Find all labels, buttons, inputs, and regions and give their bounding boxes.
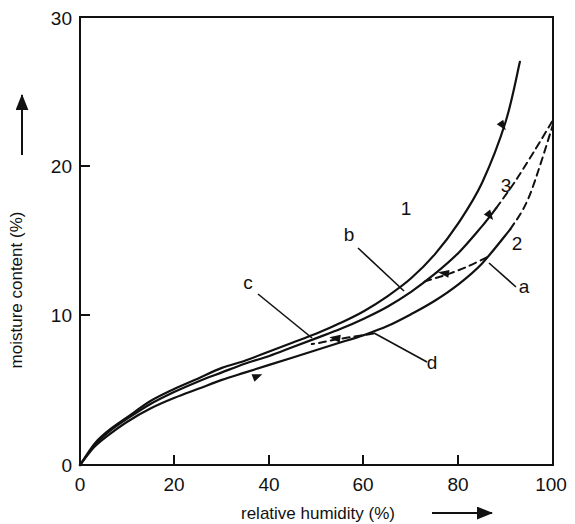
chart-svg: 0 10 20 30 0 20 40 60 80 100 relative hu… xyxy=(0,0,575,524)
curve-2-dashed xyxy=(510,125,553,230)
leader-a xyxy=(489,263,516,287)
y-axis-ticks xyxy=(80,17,90,465)
curve-label-2: 2 xyxy=(512,233,523,254)
x-tick-80: 80 xyxy=(447,474,468,495)
leader-c xyxy=(258,294,312,338)
y-tick-0: 0 xyxy=(61,455,72,476)
y-axis-tick-labels: 0 10 20 30 xyxy=(51,8,72,476)
leader-d xyxy=(374,333,427,362)
x-tick-20: 20 xyxy=(163,474,184,495)
curve-label-d: d xyxy=(427,352,438,373)
y-tick-30: 30 xyxy=(51,8,72,29)
plot-frame xyxy=(80,17,553,465)
x-axis-label: relative humidity (%) xyxy=(241,504,395,523)
curve-label-3: 3 xyxy=(501,175,512,196)
curve-label-c: c xyxy=(243,272,253,293)
y-axis-label: moisture content (%) xyxy=(7,212,26,369)
curve-1 xyxy=(80,62,520,465)
x-tick-0: 0 xyxy=(75,474,86,495)
y-tick-20: 20 xyxy=(51,156,72,177)
curve-label-a: a xyxy=(519,276,530,297)
x-tick-40: 40 xyxy=(258,474,279,495)
curve-label-b: b xyxy=(344,224,355,245)
x-axis-ticks xyxy=(80,455,553,465)
leader-b xyxy=(358,248,404,291)
curve-label-1: 1 xyxy=(401,198,412,219)
arrow-curve-2 xyxy=(252,371,264,382)
curve-3 xyxy=(80,208,496,465)
x-tick-100: 100 xyxy=(535,474,567,495)
chart-figure: 0 10 20 30 0 20 40 60 80 100 relative hu… xyxy=(0,0,575,524)
curve-group xyxy=(80,62,553,465)
y-tick-10: 10 xyxy=(51,305,72,326)
x-axis-tick-labels: 0 20 40 60 80 100 xyxy=(75,474,567,495)
x-tick-60: 60 xyxy=(352,474,373,495)
